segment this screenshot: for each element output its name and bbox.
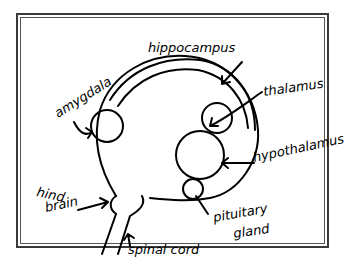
label-hippocampus: hippocampus [148,40,236,55]
brain-diagram: hippocampus amygdala thalamus hypothalam… [0,0,348,276]
label-gland: gland [232,221,271,241]
label-spinal-cord: spinal cord [128,242,200,257]
arrow-amygdala [74,122,92,138]
spinal-cord-left [102,214,116,254]
hind-brain-bulge [111,196,116,214]
arrow-hind-brain [78,198,108,210]
hypothalamus-circle [176,131,224,179]
amygdala-circle [91,110,123,142]
label-hypothalamus: hypothalamus [252,131,346,165]
label-thalamus: thalamus [262,76,324,99]
pituitary-circle [183,179,203,199]
thalamus-circle [202,103,232,133]
